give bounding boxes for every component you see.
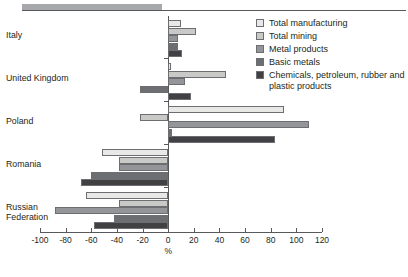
bar xyxy=(168,28,196,35)
x-axis-tick xyxy=(271,228,272,232)
bar xyxy=(140,86,168,93)
x-axis-tick xyxy=(245,228,246,232)
legend-swatch-icon xyxy=(256,58,264,66)
x-axis-tick xyxy=(194,228,195,232)
x-axis-tick-label: -60 xyxy=(85,235,97,245)
x-axis-tick-label: 100 xyxy=(289,235,303,245)
x-axis-unit-label: % xyxy=(164,246,172,256)
bar xyxy=(140,114,168,121)
bar xyxy=(168,63,171,70)
x-axis-tick xyxy=(66,228,67,232)
bar xyxy=(94,222,168,229)
bar xyxy=(168,35,178,42)
legend-item-label: Chemicals, petroleum, rubber and plastic… xyxy=(269,70,406,91)
bar xyxy=(86,192,168,199)
category-label: United Kingdom xyxy=(6,73,69,83)
bar xyxy=(114,215,168,222)
bar xyxy=(81,179,168,186)
bar xyxy=(168,106,283,113)
legend-swatch-icon xyxy=(256,45,264,53)
x-axis-tick xyxy=(296,228,297,232)
category-separator-tick xyxy=(164,187,168,188)
x-axis-tick-label: 20 xyxy=(189,235,198,245)
bar xyxy=(168,50,182,57)
legend-item: Metal products xyxy=(256,44,406,55)
legend-swatch-icon xyxy=(256,19,264,27)
category-label: Russian Federation xyxy=(6,202,48,222)
legend-item: Basic metals xyxy=(256,57,406,68)
x-axis-tick xyxy=(91,228,92,232)
x-axis-tick-label: 60 xyxy=(240,235,249,245)
legend-item: Total mining xyxy=(256,31,406,42)
x-axis-tick-label: -100 xyxy=(31,235,48,245)
x-axis-tick-label: 80 xyxy=(266,235,275,245)
bar xyxy=(168,129,172,136)
x-axis-tick xyxy=(168,228,169,232)
x-axis-tick-label: -20 xyxy=(136,235,148,245)
x-axis-tick-label: 120 xyxy=(315,235,329,245)
bar xyxy=(102,149,169,156)
bar xyxy=(168,78,185,85)
x-axis-line xyxy=(40,232,322,233)
legend-item-label: Metal products xyxy=(269,44,328,55)
x-axis-tick-label: -80 xyxy=(59,235,71,245)
bar xyxy=(168,43,178,50)
bar xyxy=(168,20,181,27)
bar xyxy=(168,136,274,143)
legend-item-label: Total mining xyxy=(269,31,317,42)
x-axis-tick-label: 40 xyxy=(215,235,224,245)
header-rule xyxy=(22,10,406,11)
bar xyxy=(119,164,168,171)
category-label: Romania xyxy=(6,159,41,169)
category-separator-tick xyxy=(164,58,168,59)
bar xyxy=(168,93,191,100)
legend-item: Total manufacturing xyxy=(256,18,406,29)
legend-item-label: Total manufacturing xyxy=(269,18,348,29)
legend-item-label: Basic metals xyxy=(269,57,320,68)
category-label: Italy xyxy=(6,30,22,40)
bar xyxy=(119,200,168,207)
x-axis-tick xyxy=(219,228,220,232)
x-axis-tick-label: 0 xyxy=(166,235,171,245)
bar xyxy=(168,71,226,78)
legend-item: Chemicals, petroleum, rubber and plastic… xyxy=(256,70,406,91)
x-axis-tick xyxy=(322,228,323,232)
bar xyxy=(119,157,168,164)
legend-swatch-icon xyxy=(256,32,264,40)
x-axis-tick xyxy=(40,228,41,232)
category-separator-tick xyxy=(164,101,168,102)
legend-swatch-icon xyxy=(256,71,264,79)
bar xyxy=(168,121,309,128)
x-axis-tick-label: -40 xyxy=(111,235,123,245)
bar xyxy=(91,172,168,179)
chart-legend: Total manufacturingTotal miningMetal pro… xyxy=(256,18,406,94)
category-label: Poland xyxy=(6,116,33,126)
category-separator-tick xyxy=(164,144,168,145)
chart-root: -100-80-60-40-20020406080100120%ItalyUni… xyxy=(0,0,408,277)
bar xyxy=(55,207,168,214)
